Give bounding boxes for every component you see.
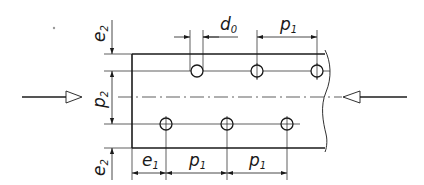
label-p1-bottom-b: p1 <box>248 150 266 171</box>
label-p1-bottom-a: p1 <box>188 150 206 171</box>
label-p1-top: p1 <box>279 14 297 35</box>
plate <box>132 50 330 152</box>
horizontal-extension-lines <box>104 54 330 148</box>
svg-text:e2: e2 <box>89 25 110 42</box>
label-e1: e1 <box>142 150 159 171</box>
break-line <box>323 50 330 152</box>
label-e2-top: e2 <box>89 25 110 42</box>
label-e2-bottom: e2 <box>89 159 110 176</box>
load-arrow-right-icon <box>22 91 82 103</box>
hole <box>191 65 203 77</box>
label-d0: d0 <box>220 14 237 35</box>
stray-dot <box>53 27 55 29</box>
load-arrow-left-icon <box>343 91 407 103</box>
label-p2: p2 <box>89 91 110 109</box>
svg-text:e2: e2 <box>89 159 110 176</box>
svg-text:p2: p2 <box>89 91 110 109</box>
plate-spacing-diagram: e2 p2 e2 d0 p1 e1 p1 p1 <box>0 0 424 185</box>
